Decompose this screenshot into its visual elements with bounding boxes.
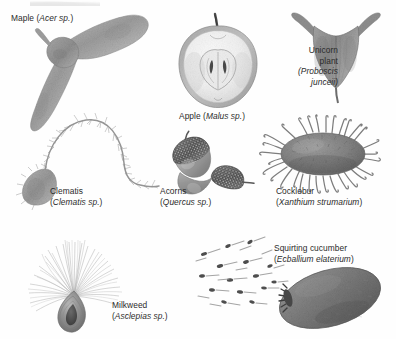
clematis-scientific-name: Clematis sp. bbox=[53, 197, 100, 207]
maple-scientific-name: Acer sp. bbox=[39, 13, 70, 23]
dispersal-figure: Maple (Acer sp.) bbox=[0, 0, 396, 339]
unicorn-plant-scientific-name-line1: (Proboscis bbox=[282, 66, 338, 77]
apple-common-name: Apple bbox=[179, 111, 201, 121]
squirting-cucumber-scientific-name: Ecballium elaterium bbox=[277, 254, 351, 264]
cocklebur-common-name: Cocklebur bbox=[276, 186, 362, 197]
cocklebur-scientific-name: Xanthium strumarium bbox=[279, 197, 360, 207]
apple-label: Apple (Malus sp.) bbox=[179, 111, 245, 121]
maple-label: Maple (Acer sp.) bbox=[11, 13, 73, 23]
acorns-label: Acorns (Quercus sp.) bbox=[160, 186, 211, 207]
apple-cross-section-illustration bbox=[168, 10, 268, 115]
milkweed-label: Milkweed (Asclepias sp.) bbox=[112, 300, 168, 321]
squirting-cucumber-common-name: Squirting cucumber bbox=[274, 243, 354, 254]
milkweed-scientific-name: Asclepias sp. bbox=[115, 311, 165, 321]
unicorn-plant-scientific-name-line2: junceii) bbox=[282, 77, 338, 88]
squirting-cucumber-label: Squirting cucumber (Ecballium elaterium) bbox=[274, 243, 354, 264]
cocklebur-label: Cocklebur (Xanthium strumarium) bbox=[276, 186, 362, 207]
cocklebur-illustration bbox=[256, 112, 390, 192]
apple-scientific-name: Malus sp. bbox=[206, 111, 242, 121]
milkweed-common-name: Milkweed bbox=[112, 300, 168, 311]
acorns-scientific-name: Quercus sp. bbox=[163, 197, 209, 207]
milkweed-illustration bbox=[14, 236, 138, 336]
acorns-common-name: Acorns bbox=[160, 186, 211, 197]
unicorn-plant-common-name-line2: plant bbox=[282, 56, 338, 67]
page-edge-artifact bbox=[30, 0, 100, 6]
unicorn-plant-common-name-line1: Unicorn bbox=[282, 45, 338, 56]
unicorn-plant-label: Unicorn plant (Proboscis junceii) bbox=[282, 45, 338, 87]
clematis-label: Clematis (Clematis sp.) bbox=[50, 186, 102, 207]
maple-common-name: Maple bbox=[11, 13, 34, 23]
clematis-common-name: Clematis bbox=[50, 186, 102, 197]
